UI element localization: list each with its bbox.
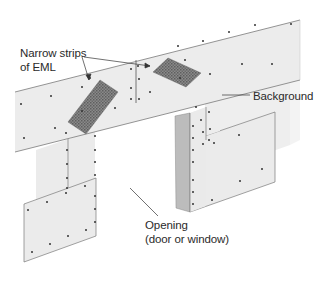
opening-label-line2: (door or window) — [145, 232, 229, 246]
eml-label-line2: of EML — [20, 60, 86, 74]
right-column-edge — [175, 113, 190, 212]
opening-label: Opening (door or window) — [145, 218, 229, 246]
opening-label-line1: Opening — [145, 218, 229, 232]
right-column-face — [190, 107, 206, 212]
eml-label-line1: Narrow strips — [20, 46, 86, 60]
background-label: Background — [253, 89, 313, 103]
eml-label: Narrow strips of EML — [20, 46, 86, 74]
